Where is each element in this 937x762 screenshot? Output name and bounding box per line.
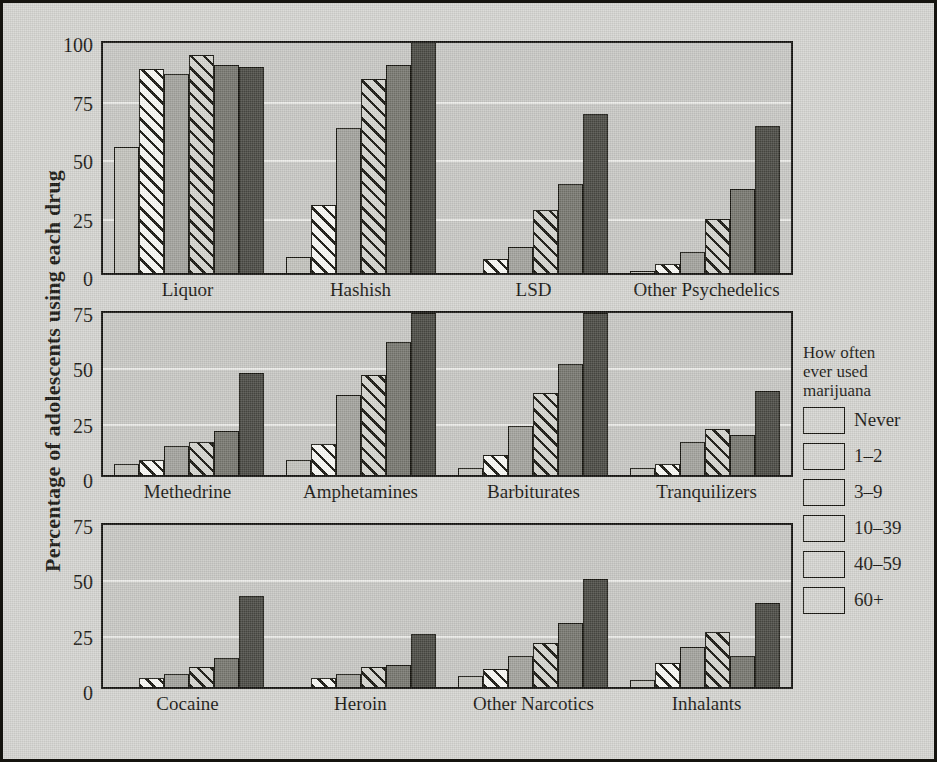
bar-group-heroin xyxy=(275,525,447,687)
x-axis-ticks-bottom: CocaineHeroinOther NarcoticsInhalants xyxy=(101,693,793,715)
bar[interactable] xyxy=(239,596,264,687)
bar[interactable] xyxy=(361,79,386,273)
bar[interactable] xyxy=(336,674,361,687)
bar[interactable] xyxy=(583,313,608,475)
bar[interactable] xyxy=(164,674,189,687)
legend-item-Never[interactable]: Never xyxy=(803,407,931,434)
bar-group-other-psychedelics xyxy=(619,43,791,273)
bar[interactable] xyxy=(189,667,214,687)
bar[interactable] xyxy=(680,252,705,273)
x-tick-label: Inhalants xyxy=(620,693,793,715)
legend-label: 60+ xyxy=(854,589,884,611)
bar-group-amphetamines xyxy=(275,313,447,475)
legend-label: 1–2 xyxy=(854,445,883,467)
bar[interactable] xyxy=(114,464,139,475)
bar[interactable] xyxy=(705,632,730,687)
bar[interactable] xyxy=(655,464,680,475)
bar[interactable] xyxy=(386,342,411,475)
bar[interactable] xyxy=(336,128,361,273)
bar[interactable] xyxy=(139,460,164,475)
bar[interactable] xyxy=(508,247,533,273)
legend-item-10-39[interactable]: 10–39 xyxy=(803,515,931,542)
bar[interactable] xyxy=(189,442,214,475)
bar[interactable] xyxy=(508,656,533,687)
x-tick-label: Hashish xyxy=(274,279,447,301)
x-tick-label: Other Psychedelics xyxy=(620,279,793,301)
bar[interactable] xyxy=(583,579,608,687)
bar[interactable] xyxy=(730,656,755,687)
bar[interactable] xyxy=(361,667,386,687)
bar[interactable] xyxy=(139,678,164,687)
bar[interactable] xyxy=(630,468,655,475)
x-tick-label: LSD xyxy=(447,279,620,301)
bar[interactable] xyxy=(680,647,705,687)
legend-item-40-59[interactable]: 40–59 xyxy=(803,551,931,578)
y-tick-label: 100 xyxy=(63,34,93,57)
bar[interactable] xyxy=(755,391,780,475)
bar[interactable] xyxy=(336,395,361,475)
bar[interactable] xyxy=(286,257,311,273)
bar[interactable] xyxy=(483,259,508,273)
bar[interactable] xyxy=(239,373,264,475)
bar[interactable] xyxy=(533,210,558,273)
bar[interactable] xyxy=(533,643,558,687)
bar[interactable] xyxy=(533,393,558,475)
bar[interactable] xyxy=(483,455,508,475)
bar[interactable] xyxy=(508,426,533,475)
bar-group-methedrine xyxy=(103,313,275,475)
bar[interactable] xyxy=(411,313,436,475)
bar[interactable] xyxy=(458,676,483,687)
bar[interactable] xyxy=(311,205,336,273)
bar[interactable] xyxy=(386,665,411,687)
bar[interactable] xyxy=(655,663,680,687)
bar[interactable] xyxy=(583,114,608,273)
bar[interactable] xyxy=(558,364,583,475)
panel-bottom xyxy=(101,523,793,689)
legend-item-3-9[interactable]: 3–9 xyxy=(803,479,931,506)
x-tick-label: Tranquilizers xyxy=(620,481,793,503)
bar[interactable] xyxy=(458,468,483,475)
bar[interactable] xyxy=(214,65,239,273)
bar[interactable] xyxy=(386,65,411,273)
figure-frame: Percentage of adolescents using each dru… xyxy=(0,0,937,762)
bar[interactable] xyxy=(705,429,730,475)
bar[interactable] xyxy=(214,658,239,687)
bar[interactable] xyxy=(214,431,239,475)
bar-group-other-narcotics xyxy=(447,525,619,687)
bar[interactable] xyxy=(755,603,780,687)
bar[interactable] xyxy=(286,460,311,475)
bar-group-lsd xyxy=(447,43,619,273)
bar[interactable] xyxy=(239,67,264,273)
bar[interactable] xyxy=(361,375,386,475)
bar[interactable] xyxy=(630,680,655,687)
legend-item-60+[interactable]: 60+ xyxy=(803,587,931,614)
bar[interactable] xyxy=(311,678,336,687)
bar[interactable] xyxy=(730,435,755,475)
bar-group-hashish xyxy=(275,43,447,273)
bar[interactable] xyxy=(755,126,780,273)
y-tick-label: 25 xyxy=(73,626,93,649)
legend-swatch-icon xyxy=(803,479,845,506)
bar[interactable] xyxy=(558,184,583,273)
bar[interactable] xyxy=(411,43,436,273)
bar[interactable] xyxy=(411,634,436,687)
bar[interactable] xyxy=(730,189,755,273)
bar[interactable] xyxy=(164,74,189,273)
bar[interactable] xyxy=(630,271,655,273)
bar[interactable] xyxy=(655,264,680,273)
legend: How oftenever usedmarijuana Never1–23–91… xyxy=(803,343,931,623)
bar[interactable] xyxy=(114,147,139,273)
x-axis-ticks-middle: MethedrineAmphetaminesBarbituratesTranqu… xyxy=(101,481,793,503)
bar[interactable] xyxy=(705,219,730,273)
y-tick-label: 50 xyxy=(73,359,93,382)
bar[interactable] xyxy=(483,669,508,687)
y-tick-label: 0 xyxy=(83,268,93,291)
bar[interactable] xyxy=(164,446,189,475)
bar[interactable] xyxy=(311,444,336,475)
bar[interactable] xyxy=(139,69,164,273)
bar[interactable] xyxy=(189,55,214,273)
bar[interactable] xyxy=(558,623,583,687)
y-tick-label: 50 xyxy=(73,571,93,594)
bar[interactable] xyxy=(680,442,705,475)
legend-item-1-2[interactable]: 1–2 xyxy=(803,443,931,470)
